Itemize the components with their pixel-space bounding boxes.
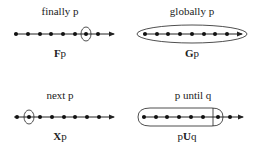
panel-title: next p [46,89,74,101]
formula: Fp [54,47,67,59]
panel-title: finally p [42,5,79,17]
panel-finally: finally p Fp [14,5,114,59]
panel-title: globally p [170,5,215,17]
ltl-operators-diagram: finally p Fp globally p Gp next p Xp p u… [0,0,259,149]
panel-title: p until q [175,89,212,101]
panel-until: p until q pUq [138,89,243,142]
formula: pUq [178,130,197,142]
formula: Xp [53,130,67,142]
panel-globally: globally p Gp [137,5,247,59]
panel-next: next p Xp [14,89,114,142]
formula: Gp [185,47,200,59]
